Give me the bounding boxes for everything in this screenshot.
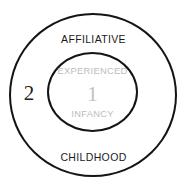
inner-ring-bottom-label: INFANCY [47,110,138,119]
inner-ring-top-label: EXPERIENCED [47,67,138,76]
outer-ring-number: 2 [14,83,44,104]
inner-ring-number: 1 [47,83,138,105]
outer-ring-top-label: AFFILIATIVE [0,34,187,45]
concentric-ring-diagram: AFFILIATIVE CHILDHOOD EXPERIENCED INFANC… [0,0,187,189]
outer-ring-bottom-label: CHILDHOOD [0,152,187,163]
